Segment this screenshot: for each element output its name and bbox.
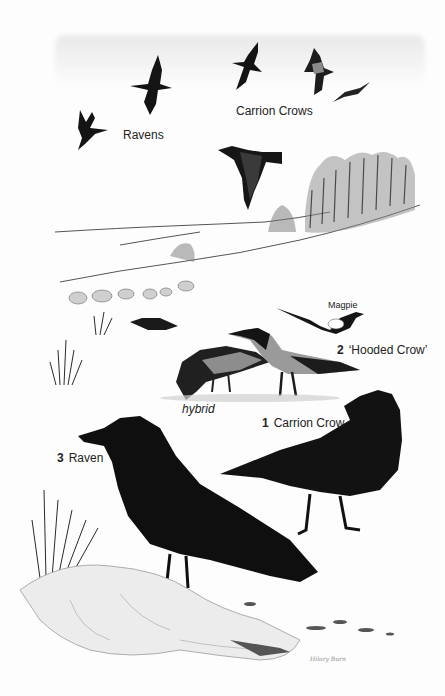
hybrid-label: hybrid (182, 402, 215, 416)
ground-shadow (160, 394, 340, 402)
sheep-flock (69, 281, 194, 304)
flying-raven-left (78, 110, 108, 150)
hooded-crow-number: 2 (337, 343, 344, 357)
ravens-flight-label: Ravens (123, 128, 164, 142)
distant-ground-crow (130, 318, 178, 330)
raven-number: 3 (57, 451, 64, 465)
carrion-crow-number: 1 (262, 416, 269, 430)
sheep-carcass (20, 565, 300, 660)
trees (170, 152, 415, 262)
raven-label: 3Raven (57, 451, 103, 465)
flying-distant-bird (333, 82, 370, 102)
magpie-label: Magpie (328, 300, 358, 310)
artist-signature: Hilary Burn (310, 655, 346, 662)
bird-plate: Ravens Carrion Crows Magpie 2‘Hooded Cro… (0, 0, 445, 696)
flying-hooded-crow (304, 48, 334, 95)
carrion-crows-flight-label: Carrion Crows (236, 104, 313, 118)
carrion-crow-label: 1Carrion Crow (262, 416, 344, 430)
flying-raven-banking (218, 146, 282, 210)
flying-crow-1 (232, 42, 262, 90)
hybrid-crow-bird (176, 346, 270, 400)
raven-name: Raven (69, 451, 104, 465)
flying-raven-center (130, 55, 172, 115)
magpie-bird (276, 308, 364, 334)
hooded-crow-name: ‘Hooded Crow’ (349, 343, 428, 357)
hooded-crow-label: 2‘Hooded Crow’ (337, 343, 427, 357)
carrion-crow-name: Carrion Crow (274, 416, 345, 430)
carrion-crow-bird (220, 390, 402, 534)
